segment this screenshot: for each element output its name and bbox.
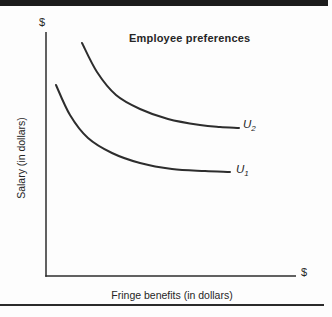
curve-u1: [56, 85, 230, 172]
curve-label-u2-subscript: 2: [251, 124, 255, 133]
y-axis-title: Salary (in dollars): [15, 117, 27, 199]
curve-label-u1-subscript: 1: [244, 169, 248, 178]
bottom-border-rule: [0, 304, 324, 306]
chart-title: Employee preferences: [129, 32, 250, 44]
curve-u2: [82, 43, 239, 128]
curve-label-u1: U1: [236, 163, 249, 178]
indifference-curve-figure: $ $ Employee preferences U2 U1 Salary (i…: [0, 0, 332, 317]
chart-canvas: [0, 0, 332, 317]
y-axis-dollar-label: $: [39, 16, 45, 28]
x-axis-title: Fringe benefits (in dollars): [111, 289, 232, 301]
curve-label-u2: U2: [243, 118, 256, 133]
x-axis-dollar-label: $: [301, 266, 307, 278]
